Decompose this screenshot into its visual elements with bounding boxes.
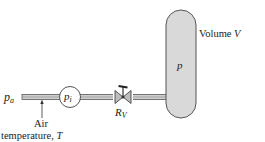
pneumatic-system-diagram: pa pi RV p Volume V Air temperature, T [0,0,265,142]
temperature-label: temperature, T [1,130,63,141]
air-temperature-arrow-icon [40,100,43,119]
air-label: Air [34,118,49,129]
pipe [22,95,167,100]
tank-pressure-label: p [176,59,183,71]
volume-label: Volume V [199,28,242,39]
inlet-pressure-label: pa [3,90,14,105]
valve-icon [113,86,133,104]
valve-resistance-label: RV [114,106,128,120]
